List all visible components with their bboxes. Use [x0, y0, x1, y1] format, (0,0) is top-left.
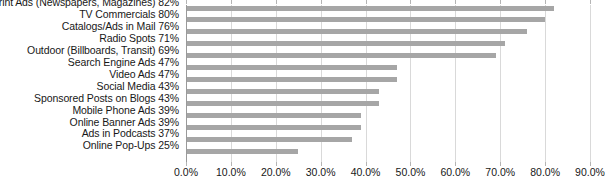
bar: [186, 137, 352, 142]
x-axis-tick-label: 60.0%: [440, 166, 470, 178]
category-label: Mobile Phone Ads 39%: [72, 105, 179, 115]
category-label: Social Media 43%: [97, 81, 179, 91]
x-axis-tick-mark: [321, 0, 322, 4]
category-axis-labels: Print Ads (Newspapers, Magazines) 82%TV …: [0, 0, 183, 164]
x-axis-tick-mark: [321, 162, 322, 166]
bar: [186, 89, 379, 94]
plot-area: [186, 5, 590, 162]
x-axis-tick-mark: [366, 0, 367, 4]
x-axis-tick-label: 20.0%: [261, 166, 291, 178]
bar: [186, 6, 554, 11]
category-label: Outdoor (Billboards, Transit) 69%: [27, 45, 179, 55]
x-axis-tick-mark: [276, 162, 277, 166]
x-axis-tick-label: 40.0%: [351, 166, 381, 178]
bar: [186, 149, 298, 154]
category-label: Sponsored Posts on Blogs 43%: [34, 93, 179, 103]
bar: [186, 77, 397, 82]
category-label: Online Pop-Ups 25%: [83, 140, 179, 150]
category-label: Radio Spots 71%: [99, 33, 179, 43]
bar: [186, 125, 361, 130]
x-axis-tick-mark: [366, 162, 367, 166]
x-axis-tick-mark: [231, 0, 232, 4]
category-label: Search Engine Ads 47%: [68, 57, 179, 67]
x-axis-tick-mark: [500, 0, 501, 4]
x-axis-tick-labels: 0.0%10.0%20.0%30.0%40.0%50.0%60.0%70.0%8…: [0, 166, 607, 179]
bar: [186, 17, 545, 22]
gridline: [590, 5, 591, 162]
gridline: [545, 5, 546, 162]
x-axis-tick-label: 70.0%: [485, 166, 515, 178]
bar: [186, 41, 505, 46]
x-axis-tick-mark: [590, 162, 591, 166]
x-axis-tick-mark: [410, 162, 411, 166]
x-axis-tick-mark: [276, 0, 277, 4]
x-axis-tick-label: 50.0%: [396, 166, 426, 178]
horizontal-bar-chart: Print Ads (Newspapers, Magazines) 82%TV …: [0, 0, 607, 179]
x-axis-tick-label: 0.0%: [174, 166, 198, 178]
x-axis-tick-mark: [231, 162, 232, 166]
x-axis-tick-mark: [590, 0, 591, 4]
bar: [186, 53, 496, 58]
x-axis-tick-mark: [545, 162, 546, 166]
bar: [186, 113, 361, 118]
x-axis-tick-label: 90.0%: [575, 166, 605, 178]
x-axis-tick-mark: [455, 162, 456, 166]
x-axis-tick-label: 30.0%: [306, 166, 336, 178]
category-label: Video Ads 47%: [109, 69, 179, 79]
y-axis-line: [186, 5, 187, 162]
category-label: Catalogs/Ads in Mail 76%: [62, 21, 179, 31]
x-axis-tick-mark: [186, 0, 187, 4]
x-axis-tick-label: 80.0%: [530, 166, 560, 178]
bar: [186, 101, 379, 106]
x-axis-tick-label: 10.0%: [216, 166, 246, 178]
x-axis-tick-mark: [186, 162, 187, 166]
x-axis-tick-mark: [455, 0, 456, 4]
x-axis-tick-mark: [545, 0, 546, 4]
bar: [186, 65, 397, 70]
category-label: Online Banner Ads 39%: [70, 117, 179, 127]
x-axis-tick-mark: [500, 162, 501, 166]
category-label: Ads in Podcasts 37%: [82, 128, 179, 138]
category-label: Print Ads (Newspapers, Magazines) 82%: [0, 0, 179, 7]
category-label: TV Commercials 80%: [79, 9, 179, 19]
bar: [186, 29, 527, 34]
x-axis-tick-mark: [410, 0, 411, 4]
